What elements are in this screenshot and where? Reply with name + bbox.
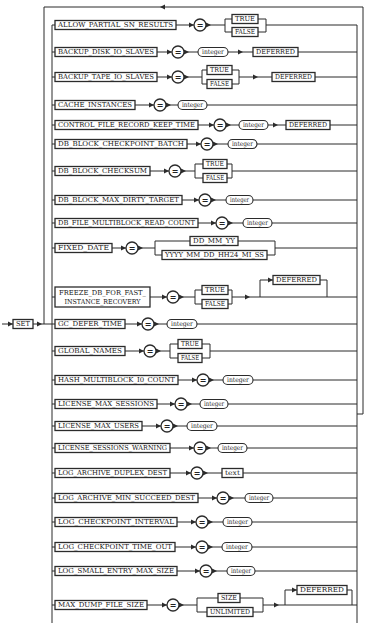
syntax-row-db-file-multiblock-read-count: DB_FILE_MULTIBLOCK_READ_COUNT=integer [52,217,357,229]
parameter-label: INSTANCE_RECOVERY [65,298,141,306]
arrow-right-icon [149,103,154,108]
arrow-right-icon [206,446,211,451]
variable-label: integer [171,320,194,328]
equals-symbol: = [164,422,171,431]
parameter-label: LOG_ARCHIVE_MIN_SUCCEED_DEST [58,494,195,502]
variable-label: integer [231,567,252,575]
parameter-label: FREEZE_DB_FOR_FAST_ [59,289,147,297]
equals-symbol: = [157,101,164,110]
arrow-right-icon [192,378,197,383]
arrow-right-icon [245,295,250,300]
deferred-label: DEFERRED [300,586,345,594]
equals-symbol: = [200,376,207,385]
variable-label: integer [202,48,225,56]
arrow-right-icon [164,169,169,174]
parameter-label: CACHE_INSTANCES [58,101,132,109]
arrow-right-icon [184,50,189,55]
parameter-label: DB_FILE_MULTIBLOCK_READ_COUNT [58,219,195,227]
syntax-row-backup-tape-io-slaves: BACKUP_TAPE_IO_SLAVES=TRUEFALSEDEFERRED [52,66,357,89]
arrow-right-icon [139,349,144,354]
option-label: TRUE [205,286,225,294]
parameter-label: GC_DEFER_TIME [58,320,122,328]
arrow-right-icon [173,424,178,429]
arrow-right-icon [206,23,211,28]
equals-symbol: = [197,21,204,30]
arrow-right-icon [170,402,175,407]
arrow-right-icon [238,50,243,55]
variable-label: integer [230,196,250,204]
arrow-right-icon [213,142,218,147]
option-label: FALSE [235,28,255,36]
arrow-right-icon [211,198,216,203]
deferred-label: DEFERRED [256,48,296,56]
syntax-row-allow-partial-sn-results: ALLOW_PARTIAL_SN_RESULTS=TRUEFALSE [52,15,357,37]
equals-symbol: = [178,400,185,409]
parameter-label: DB_BLOCK_MAX_DIRTY_TARGET [58,196,179,204]
option-label: DD_MM_YY [193,237,236,245]
arrow-right-icon [212,496,217,501]
arrow-right-icon [121,246,126,251]
arrow-right-icon [191,545,196,550]
arrow-right-icon [167,75,172,80]
syntax-row-fixed-date: FIXED_DATE=DD_MM_YYYYYY_MM_DD_HH24_MI_SS [52,237,357,260]
deferred-label: DEFERRED [275,73,312,81]
arrow-right-icon [253,75,258,80]
parameter-label: MAX_DUMP_FILE_SIZE [58,601,144,609]
equals-symbol: = [147,347,154,356]
option-label: FALSE [206,174,224,182]
variable-label: integer [227,376,250,384]
arrow-right-icon [189,23,194,28]
deferred-label: DEFERRED [276,276,318,284]
syntax-row-gc-defer-time: GC_DEFER_TIME=integer [52,318,357,330]
arrow-right-icon [212,569,217,574]
arrow-right-icon [8,322,13,327]
syntax-row-control-file-record-keep-time: CONTROL_FILE_RECORD_KEEP_TIME=integerDEF… [52,119,357,131]
arrow-right-icon [209,378,214,383]
variable-label: integer [204,400,225,408]
parameter-label: LOG_SMALL_ENTRY_MAX_SIZE [58,567,174,575]
railroad-diagram-canvas: SETALLOW_PARTIAL_SN_RESULTS=TRUEFALSEBAC… [0,0,367,623]
syntax-row-cache-instances: CACHE_INSTANCES=integer [52,99,357,111]
syntax-row-db-block-checkpoint-batch: DB_BLOCK_CHECKPOINT_BATCH=integer [52,138,357,150]
arrow-right-icon [167,50,172,55]
parameter-label: LICENSE_MAX_USERS [58,422,139,430]
option-label: TRUE [210,66,229,74]
arrow-right-icon [208,520,213,525]
arrow-right-icon [156,424,161,429]
variable-label: integer [182,101,204,109]
option-label: TRUE [235,15,255,23]
equals-symbol: = [199,543,206,552]
equals-symbol: = [175,48,182,57]
variable-label: integer [222,444,244,452]
option-label: TRUE [181,340,199,348]
arrow-right-icon [229,496,234,501]
syntax-row-backup-disk-io-slaves: BACKUP_DISK_IO_SLAVES=integerDEFERRED [52,46,357,58]
syntax-row-log-small-entry-max-size: LOG_SMALL_ENTRY_MAX_SIZE=integer [52,565,357,577]
option-label: YYYY_MM_DD_HH24_MI_SS [164,251,264,259]
parameter-label: LICENSE_SESSIONS_WARNING [58,444,167,452]
parameter-label: ALLOW_PARTIAL_SN_RESULTS [57,21,173,29]
variable-label: integer [247,219,269,227]
arrow-right-icon [162,603,167,608]
arrow-right-icon [211,221,216,226]
equals-symbol: = [172,167,179,176]
arrow-left-icon [160,5,165,10]
syntax-diagram: SETALLOW_PARTIAL_SN_RESULTS=TRUEFALSEBAC… [0,0,367,623]
equals-symbol: = [170,601,177,610]
parameter-label: FIXED_DATE [58,244,109,252]
arrow-right-icon [226,123,231,128]
set-keyword-label: SET [16,320,30,328]
arrow-right-icon [268,278,273,283]
equals-symbol: = [199,518,206,527]
literal-label: text [225,469,240,477]
syntax-row-license-max-sessions: LICENSE_MAX_SESSIONS=integer [52,398,357,410]
parameter-label: LICENSE_MAX_SESSIONS [58,400,154,408]
arrow-right-icon [273,123,278,128]
arrow-right-icon [196,142,201,147]
equals-symbol: = [204,140,211,149]
arrow-right-icon [195,569,200,574]
arrow-right-icon [209,123,214,128]
parameter-label: LOG_ARCHIVE_DUPLEX_DEST [58,469,167,477]
arrow-right-icon [138,246,143,251]
arrow-right-icon [274,603,279,608]
